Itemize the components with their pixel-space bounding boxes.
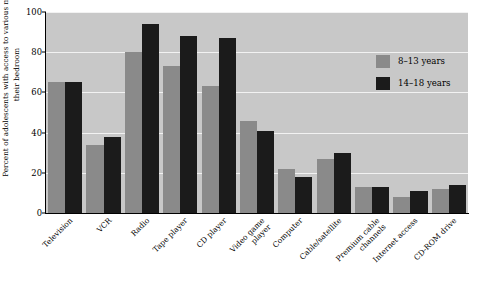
bar-9-series-0 [393, 197, 410, 213]
bar-3-series-1 [180, 36, 197, 213]
bar-9-series-1 [410, 191, 427, 213]
bar-2-series-0 [125, 52, 142, 213]
y-tick-label-1: 20 [31, 168, 42, 178]
bar-5-series-1 [257, 131, 274, 213]
legend-label-0: 8–13 years [398, 55, 445, 68]
legend-swatch-icon-0 [376, 55, 390, 68]
gridline-80 [46, 52, 468, 53]
bar-4-series-1 [219, 38, 236, 213]
bar-3-series-0 [163, 66, 180, 213]
x-axis-line [45, 213, 469, 214]
y-tick-label-4: 80 [31, 47, 42, 57]
legend-label-1: 14–18 years [398, 77, 450, 90]
bar-7-series-1 [334, 153, 351, 213]
bar-1-series-1 [104, 137, 121, 213]
legend-swatch-icon-1 [376, 77, 390, 90]
bar-1-series-0 [86, 145, 103, 213]
y-tick-label-2: 40 [31, 128, 42, 138]
bar-10-series-1 [449, 185, 466, 213]
bar-0-series-1 [65, 82, 82, 213]
bar-8-series-0 [355, 187, 372, 213]
bar-6-series-1 [295, 177, 312, 213]
y-tick-label-3: 60 [31, 87, 42, 97]
bar-chart: Percent of adolescents with access to va… [0, 0, 477, 298]
gridline-60 [46, 92, 468, 93]
bar-2-series-1 [142, 24, 159, 213]
gridline-100 [46, 12, 468, 13]
bar-8-series-1 [372, 187, 389, 213]
bar-7-series-0 [317, 159, 334, 213]
y-tick-label-5: 100 [26, 7, 42, 17]
bar-6-series-0 [278, 169, 295, 213]
bar-10-series-0 [432, 189, 449, 213]
bar-0-series-0 [48, 82, 65, 213]
bar-5-series-0 [240, 121, 257, 213]
plot-area: 8–13 years 14–18 years [46, 12, 468, 213]
bar-4-series-0 [202, 86, 219, 213]
